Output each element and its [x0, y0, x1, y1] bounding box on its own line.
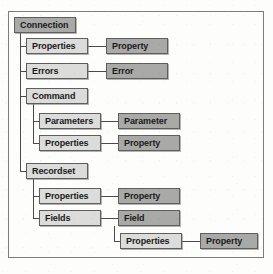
- connector-parameters-parameter: [101, 121, 118, 122]
- connector-rs-properties-property: [101, 196, 118, 197]
- object-model-diagram: Connection Properties Property Errors Er…: [0, 0, 273, 274]
- connector-trunk-command: [33, 104, 34, 143]
- node-parameter[interactable]: Parameter: [118, 113, 180, 129]
- connector-trunk-field: [114, 226, 115, 241]
- node-field-properties[interactable]: Properties: [120, 233, 182, 249]
- connector-cmd-properties-property: [101, 143, 118, 144]
- connector-trunk-recordset: [33, 179, 34, 218]
- node-connection-properties[interactable]: Properties: [26, 38, 88, 54]
- node-field[interactable]: Field: [118, 210, 180, 226]
- connector-field-properties-property: [182, 241, 200, 242]
- node-parameters[interactable]: Parameters: [39, 113, 101, 129]
- node-command-properties[interactable]: Properties: [39, 135, 101, 151]
- node-recordset-properties[interactable]: Properties: [39, 188, 101, 204]
- connector-trunk-connection: [20, 33, 21, 172]
- node-error[interactable]: Error: [106, 63, 168, 79]
- connector-fields-field: [101, 218, 118, 219]
- node-errors[interactable]: Errors: [26, 63, 88, 79]
- connector-conn-properties-property: [88, 46, 106, 47]
- node-recordset-property[interactable]: Property: [118, 188, 180, 204]
- connector-errors-error: [88, 71, 106, 72]
- node-command[interactable]: Command: [26, 88, 88, 104]
- node-connection-property[interactable]: Property: [106, 38, 168, 54]
- node-fields[interactable]: Fields: [39, 210, 101, 226]
- node-command-property[interactable]: Property: [118, 135, 180, 151]
- node-field-property[interactable]: Property: [200, 233, 258, 249]
- node-recordset[interactable]: Recordset: [26, 163, 88, 179]
- node-connection[interactable]: Connection: [14, 17, 76, 33]
